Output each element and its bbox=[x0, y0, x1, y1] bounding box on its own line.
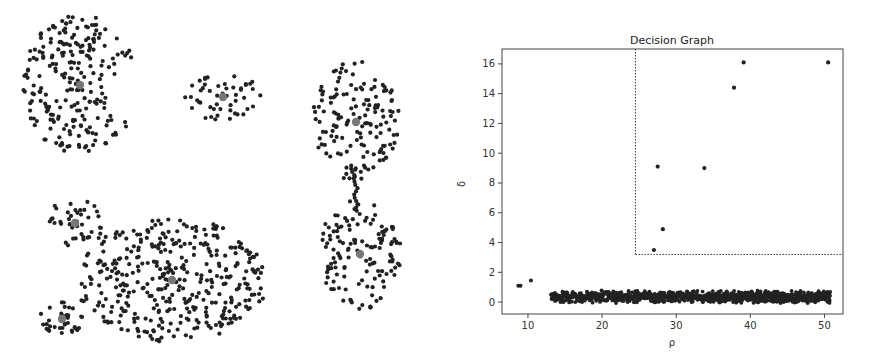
data-point bbox=[319, 85, 323, 89]
data-point bbox=[234, 99, 238, 103]
data-point bbox=[769, 294, 773, 298]
data-point bbox=[190, 293, 194, 297]
data-point bbox=[80, 114, 84, 118]
data-point bbox=[257, 299, 261, 303]
data-point bbox=[69, 66, 73, 70]
data-point bbox=[221, 226, 225, 230]
data-point bbox=[137, 255, 141, 259]
data-point bbox=[129, 250, 133, 254]
data-point bbox=[388, 91, 392, 95]
data-point bbox=[107, 65, 111, 69]
data-point bbox=[247, 298, 251, 302]
data-point bbox=[345, 92, 349, 96]
y-tick-label: 12 bbox=[482, 118, 495, 129]
data-point bbox=[241, 112, 245, 116]
data-point bbox=[126, 304, 130, 308]
data-point bbox=[30, 99, 34, 103]
data-point bbox=[22, 74, 26, 78]
data-point bbox=[805, 294, 809, 298]
data-point bbox=[61, 54, 65, 58]
data-point bbox=[378, 273, 382, 277]
data-point bbox=[368, 245, 372, 249]
data-point bbox=[391, 110, 395, 114]
data-point bbox=[106, 321, 110, 325]
data-point bbox=[770, 299, 774, 303]
data-point bbox=[726, 291, 730, 295]
data-point bbox=[67, 217, 71, 221]
data-point bbox=[203, 241, 207, 245]
data-point bbox=[73, 118, 77, 122]
data-point bbox=[95, 209, 99, 213]
data-point bbox=[132, 320, 136, 324]
data-point bbox=[331, 248, 335, 252]
data-point bbox=[76, 101, 80, 105]
data-point bbox=[208, 89, 212, 93]
data-point bbox=[825, 291, 829, 295]
data-point bbox=[23, 90, 27, 94]
data-point bbox=[358, 212, 362, 216]
data-point bbox=[633, 289, 637, 293]
data-point bbox=[231, 86, 235, 90]
data-point bbox=[159, 222, 163, 226]
data-point bbox=[248, 287, 252, 291]
data-point bbox=[354, 87, 358, 91]
data-point bbox=[759, 290, 763, 294]
data-point bbox=[321, 130, 325, 134]
data-point bbox=[661, 295, 665, 299]
data-point bbox=[157, 309, 161, 313]
data-point bbox=[96, 116, 100, 120]
data-point bbox=[817, 294, 821, 298]
data-point bbox=[391, 227, 395, 231]
data-point bbox=[124, 124, 128, 128]
data-point bbox=[108, 275, 112, 279]
data-point bbox=[126, 295, 130, 299]
data-point bbox=[140, 262, 144, 266]
data-point bbox=[346, 119, 350, 123]
data-point bbox=[234, 251, 238, 255]
y-tick-label: 8 bbox=[489, 177, 495, 188]
data-point bbox=[68, 61, 72, 65]
data-point bbox=[83, 285, 87, 289]
data-point bbox=[101, 250, 105, 254]
data-point bbox=[146, 261, 150, 265]
data-point bbox=[99, 99, 103, 103]
data-point bbox=[125, 247, 129, 251]
data-point bbox=[571, 290, 575, 294]
data-point bbox=[133, 312, 137, 316]
data-point bbox=[383, 229, 387, 233]
data-point bbox=[81, 50, 85, 54]
data-point bbox=[362, 82, 366, 86]
data-point bbox=[97, 283, 101, 287]
data-point bbox=[796, 292, 800, 296]
data-point bbox=[84, 144, 88, 148]
data-point bbox=[58, 40, 62, 44]
data-point bbox=[392, 133, 396, 137]
data-point bbox=[204, 289, 208, 293]
data-point bbox=[101, 59, 105, 63]
data-point bbox=[628, 299, 632, 303]
cluster-center-marker bbox=[76, 81, 84, 89]
data-point bbox=[365, 269, 369, 273]
y-tick-label: 16 bbox=[482, 58, 495, 69]
data-point bbox=[86, 252, 90, 256]
data-point bbox=[795, 300, 799, 304]
data-point bbox=[238, 316, 242, 320]
data-point bbox=[39, 312, 43, 316]
data-point bbox=[103, 44, 107, 48]
data-point bbox=[368, 257, 372, 261]
data-point bbox=[132, 289, 136, 293]
data-point bbox=[215, 102, 219, 106]
data-point bbox=[338, 71, 342, 75]
y-tick-label: 2 bbox=[489, 267, 495, 278]
data-point bbox=[209, 115, 213, 119]
data-point bbox=[239, 86, 243, 90]
data-point bbox=[347, 255, 351, 259]
y-axis-label: δ bbox=[456, 181, 467, 187]
data-point bbox=[359, 177, 363, 181]
data-point bbox=[45, 110, 49, 114]
data-point bbox=[63, 305, 67, 309]
data-point bbox=[740, 299, 744, 303]
data-point bbox=[99, 291, 103, 295]
data-point bbox=[77, 134, 81, 138]
data-point bbox=[192, 253, 196, 257]
